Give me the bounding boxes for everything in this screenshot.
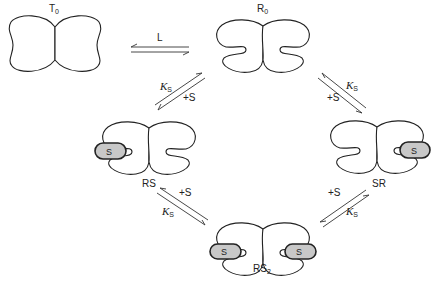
state-RS2: S S RS2 [210, 223, 316, 275]
t0-label: T0 [49, 3, 59, 15]
t0-right-subunit [55, 16, 101, 72]
label-plus-s-r0-rs: +S [183, 92, 196, 103]
rs-label: RS [142, 178, 156, 189]
allosteric-diagram: T0 L R0 KS +S KS +S S RS [0, 0, 442, 285]
r0-right-subunit [262, 20, 309, 72]
r0-label: R0 [257, 3, 268, 15]
equilibrium-T0-R0: L [131, 32, 189, 55]
t0-left-subunit [9, 16, 55, 72]
equilibrium-RS-RS2: +S KS [157, 187, 208, 225]
label-ks-rs-rs2: KS [161, 205, 174, 218]
label-plus-s-rs-rs2: +S [179, 187, 192, 198]
substrate-label-sr: S [411, 146, 417, 156]
label-ks-sr-rs2: KS [345, 205, 358, 218]
label-L: L [157, 32, 163, 43]
sr-label: SR [372, 178, 386, 189]
label-ks-r0-sr: KS [345, 79, 358, 92]
substrate-label-rs2-right: S [296, 247, 302, 257]
equilibrium-R0-SR: KS +S [318, 73, 366, 113]
state-RS: S RS [95, 122, 195, 189]
state-T0: T0 [9, 3, 101, 71]
label-plus-s-r0-sr: +S [327, 92, 340, 103]
substrate-label-rs2-left: S [221, 247, 227, 257]
r0-left-subunit [217, 20, 264, 72]
substrate-label-rs: S [106, 147, 112, 157]
label-plus-s-sr-rs2: +S [328, 187, 341, 198]
state-SR: S SR [331, 121, 430, 189]
state-R0: R0 [217, 3, 310, 72]
sr-left-subunit [331, 121, 378, 173]
equilibrium-SR-RS2: +S KS [320, 187, 369, 227]
equilibrium-R0-RS: KS +S [155, 73, 205, 110]
rs-right-subunit [148, 122, 195, 174]
label-ks-r0-rs: KS [159, 80, 172, 93]
